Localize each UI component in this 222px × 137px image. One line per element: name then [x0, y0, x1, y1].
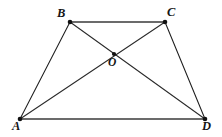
- point-label-d: D: [202, 120, 211, 133]
- vertex-dot-c: [163, 20, 168, 25]
- point-label-c: C: [167, 6, 175, 19]
- vertex-dot-b: [68, 20, 73, 25]
- segment-ab: [20, 22, 70, 119]
- point-label-a: A: [12, 120, 20, 133]
- point-label-b: B: [57, 7, 65, 20]
- diagonal-ac: [20, 22, 165, 119]
- point-label-o: O: [108, 57, 116, 69]
- figure-canvas: [0, 0, 222, 137]
- geometry-figure: A B C D O: [0, 0, 222, 137]
